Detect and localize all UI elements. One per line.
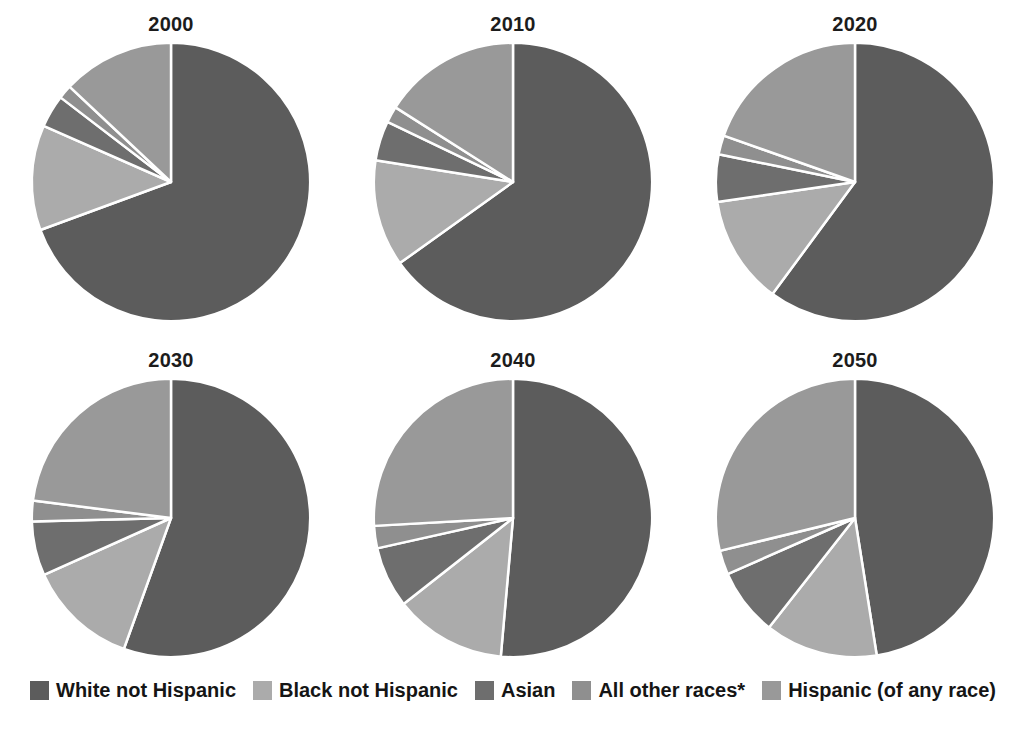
pie-canvas-2030 [28, 375, 314, 661]
pie-chart-grid: 2000 2010 2020 2030 2040 2050 [0, 0, 1026, 672]
pie-panel-2050: 2050 [684, 336, 1026, 672]
legend-item-hispanic: Hispanic (of any race) [762, 680, 996, 700]
legend-label-hispanic: Hispanic (of any race) [788, 680, 996, 700]
legend-item-all-other-races: All other races* [572, 680, 745, 700]
pie-title-2000: 2000 [148, 14, 193, 34]
legend-swatch-icon-asian [475, 681, 494, 700]
pie-svg-2000 [28, 39, 314, 325]
pie-title-2020: 2020 [832, 14, 877, 34]
population-pie-chart-figure: 2000 2010 2020 2030 2040 2050 [0, 0, 1026, 754]
legend-item-asian: Asian [475, 680, 555, 700]
legend-label-black-not-hispanic: Black not Hispanic [279, 680, 458, 700]
legend-swatch-icon-all-other-races [572, 681, 591, 700]
chart-legend: White not Hispanic Black not Hispanic As… [0, 672, 1026, 754]
pie-title-2040: 2040 [490, 350, 535, 370]
pie-svg-2040 [370, 375, 656, 661]
legend-row: White not Hispanic Black not Hispanic As… [30, 680, 996, 700]
pie-canvas-2000 [28, 39, 314, 325]
legend-swatch-icon-black-not-hispanic [253, 681, 272, 700]
pie-title-2030: 2030 [148, 350, 193, 370]
legend-label-all-other-races: All other races* [598, 680, 745, 700]
pie-panel-2030: 2030 [0, 336, 342, 672]
pie-title-2010: 2010 [490, 14, 535, 34]
pie-canvas-2050 [712, 375, 998, 661]
pie-svg-2030 [28, 375, 314, 661]
pie-title-2050: 2050 [832, 350, 877, 370]
pie-svg-2020 [712, 39, 998, 325]
pie-svg-2010 [370, 39, 656, 325]
pie-panel-2010: 2010 [342, 0, 684, 336]
pie-slice-white-not-hispanic [855, 379, 994, 656]
pie-canvas-2040 [370, 375, 656, 661]
legend-label-asian: Asian [501, 680, 555, 700]
pie-canvas-2010 [370, 39, 656, 325]
pie-panel-2020: 2020 [684, 0, 1026, 336]
pie-panel-2000: 2000 [0, 0, 342, 336]
pie-panel-2040: 2040 [342, 336, 684, 672]
pie-svg-2050 [712, 375, 998, 661]
legend-swatch-icon-white-not-hispanic [30, 681, 49, 700]
legend-label-white-not-hispanic: White not Hispanic [56, 680, 236, 700]
legend-item-white-not-hispanic: White not Hispanic [30, 680, 236, 700]
pie-slice-hispanic-of-any-race [374, 379, 513, 526]
pie-canvas-2020 [712, 39, 998, 325]
pie-slice-hispanic-of-any-race [33, 379, 171, 518]
legend-item-black-not-hispanic: Black not Hispanic [253, 680, 458, 700]
pie-slice-white-not-hispanic [501, 379, 652, 657]
legend-swatch-icon-hispanic [762, 681, 781, 700]
